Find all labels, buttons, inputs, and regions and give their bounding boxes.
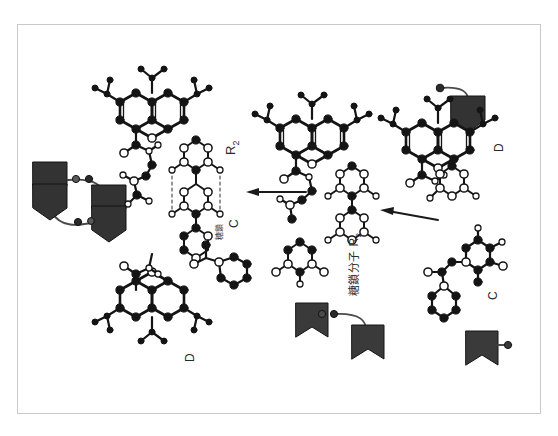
molecule-fragment-right-upper bbox=[272, 238, 328, 287]
molecule-xanthene-core-right-b bbox=[378, 96, 498, 201]
molecule-phenyl-ester-right bbox=[424, 225, 507, 322]
glyph-group-banner-single bbox=[466, 331, 512, 365]
molecule-xanthene-core-right-a bbox=[252, 92, 372, 223]
c-label-right: C bbox=[487, 291, 499, 300]
molecule-phenyl-ester-left bbox=[190, 241, 251, 289]
glyph-group-banner-pair bbox=[296, 303, 384, 359]
d-label-right: D bbox=[493, 143, 505, 152]
molecule-sugar-chain-left bbox=[169, 136, 223, 262]
right-caption: 糖鎖分子 R2 bbox=[348, 233, 363, 296]
c-label-left: C bbox=[228, 219, 240, 228]
r2-label-left: R2 bbox=[224, 141, 240, 155]
figure-root: R2 C D 糖鎖 糖鎖分子 R2 D C bbox=[0, 0, 558, 436]
figure-artwork bbox=[0, 0, 558, 436]
d-label-left: D bbox=[184, 353, 196, 362]
reaction-arrow-lower bbox=[380, 207, 438, 220]
reaction-arrow-upper bbox=[246, 188, 306, 196]
center-caption: 糖鎖 bbox=[216, 223, 224, 240]
glyph-group-shield-pair bbox=[33, 162, 126, 242]
